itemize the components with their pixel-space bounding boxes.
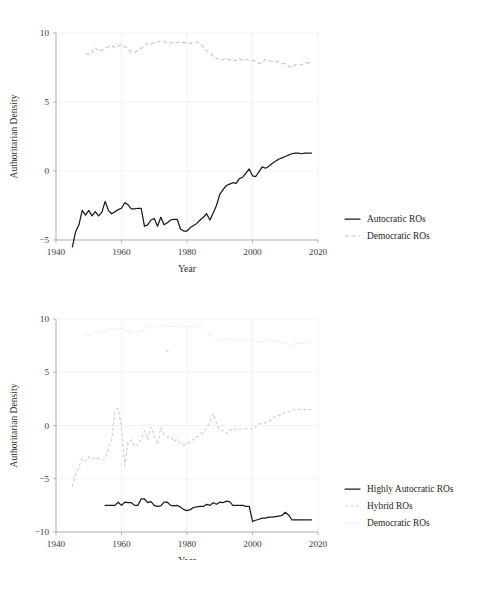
legend-label-democratic-ros: Democratic ROs: [367, 518, 430, 528]
series-line-democratic-ros: [85, 41, 311, 68]
x-tick-label: 2020: [309, 247, 328, 257]
y-tick-label: 10: [40, 28, 50, 38]
x-axis-title: Year: [178, 263, 196, 274]
y-tick-label: −5: [39, 474, 49, 484]
x-tick-label: 1980: [178, 539, 197, 549]
y-tick-label: 5: [44, 97, 49, 107]
x-tick-label: 2000: [243, 247, 262, 257]
y-axis-title: Authoritarian Density: [8, 94, 19, 178]
chart-panel-top: −5051019401960198020002020YearAuthoritar…: [0, 0, 488, 292]
x-axis-title: Year: [178, 555, 196, 560]
y-tick-label: −10: [35, 527, 50, 537]
legend-label-highly-autocratic-ros: Highly Autocratic ROs: [367, 484, 454, 494]
chart-top-svg: −5051019401960198020002020YearAuthoritar…: [0, 0, 488, 292]
x-tick-label: 1960: [112, 539, 131, 549]
y-tick-label: 10: [40, 314, 50, 324]
y-tick-label: −5: [39, 235, 49, 245]
chart-panel-bottom: −10−5051019401960198020002020YearAuthori…: [0, 292, 488, 560]
legend-label-autocratic-ros: Autocratic ROs: [367, 214, 426, 224]
series-line-hybrid-ros: [72, 408, 311, 486]
x-tick-label: 2000: [243, 539, 262, 549]
legend-label-hybrid-ros: Hybrid ROs: [367, 501, 413, 511]
x-tick-label: 2020: [309, 539, 328, 549]
stray-marker: [166, 350, 168, 352]
y-axis-title: Authoritarian Density: [8, 383, 19, 467]
series-line-democratic-ros: [85, 325, 311, 346]
x-tick-label: 1940: [47, 539, 66, 549]
legend-label-democratic-ros: Democratic ROs: [367, 231, 430, 241]
series-line-highly-autocratic-ros: [105, 499, 311, 521]
chart-bottom-svg: −10−5051019401960198020002020YearAuthori…: [0, 292, 488, 560]
y-tick-label: 5: [44, 367, 49, 377]
series-line-autocratic-ros: [72, 153, 311, 247]
y-tick-label: 0: [44, 166, 49, 176]
x-tick-label: 1980: [178, 247, 197, 257]
figure-container: −5051019401960198020002020YearAuthoritar…: [0, 0, 488, 590]
x-tick-label: 1960: [112, 247, 131, 257]
x-tick-label: 1940: [47, 247, 66, 257]
caption-fragment: [14, 582, 474, 590]
y-tick-label: 0: [44, 421, 49, 431]
